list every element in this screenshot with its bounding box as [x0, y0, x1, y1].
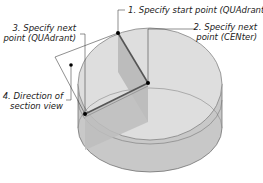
callout-3: 3. Specify next point (QUAdrant)	[3, 23, 76, 43]
callout-4: 4. Direction of section view	[3, 91, 63, 111]
center-point	[146, 81, 150, 85]
callout-1: 1. Specify start point (QUAdrant)	[128, 5, 263, 15]
direction-point	[69, 63, 73, 67]
leader-1	[118, 10, 125, 33]
third-point	[83, 112, 87, 116]
start-point	[116, 31, 120, 35]
callout-2: 2. Specify next point (CENter)	[193, 22, 257, 42]
